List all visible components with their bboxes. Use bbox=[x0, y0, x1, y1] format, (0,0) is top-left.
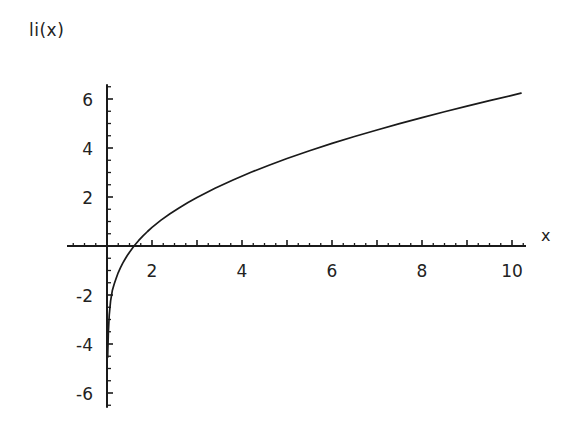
x-axis-tick-label: 10 bbox=[501, 261, 523, 281]
x-axis-tick-label: 4 bbox=[237, 261, 248, 281]
x-axis-tick-labels: 246810 bbox=[147, 261, 523, 281]
x-axis-tick-label: 8 bbox=[417, 261, 428, 281]
y-axis-tick-label: -4 bbox=[76, 335, 93, 355]
y-axis-tick-label: 4 bbox=[82, 139, 93, 159]
plot-figure: li(x) x 246810 642-2-4-6 bbox=[0, 0, 585, 422]
x-axis-minor-ticks bbox=[73, 243, 523, 246]
x-axis-group: 246810 bbox=[67, 240, 526, 281]
y-axis-tick-label: 2 bbox=[82, 188, 93, 208]
plot-canvas: 246810 642-2-4-6 bbox=[0, 0, 585, 422]
y-axis-tick-label: -6 bbox=[76, 384, 93, 404]
y-axis-tick-label: -2 bbox=[76, 286, 93, 306]
y-axis-tick-label: 6 bbox=[82, 90, 93, 110]
data-series-li-x bbox=[108, 93, 521, 357]
x-axis-tick-label: 2 bbox=[147, 261, 158, 281]
x-axis-tick-label: 6 bbox=[327, 261, 338, 281]
